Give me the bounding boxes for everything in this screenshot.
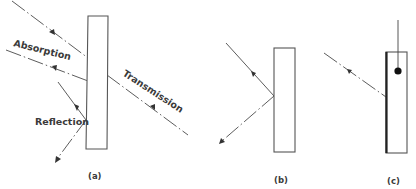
caption-b: (b) [274,175,288,185]
incident-ray [324,53,386,97]
reflected-ray [222,96,274,141]
slab-a [86,16,108,149]
sensor-dot-icon [394,67,401,74]
absorption-label: Absorption [13,37,73,62]
slab-c [386,52,407,153]
arrow-icon [219,138,225,144]
arrow-icon [251,71,256,77]
incident-ray [226,43,274,96]
slab-b [274,48,295,152]
caption-c: (c) [387,176,400,186]
caption-a: (a) [88,171,102,181]
arrow-icon [55,156,61,163]
reflection-label: Reflection [35,116,89,127]
light-interaction-diagram: Absorption Transmission Reflection (a) (… [0,0,416,189]
panel-a: Absorption Transmission Reflection (a) [6,1,188,181]
arrow-icon [347,69,352,74]
panel-c: (c) [324,20,407,186]
panel-b: (b) [219,43,295,185]
reflection-incident-ray [58,82,86,120]
